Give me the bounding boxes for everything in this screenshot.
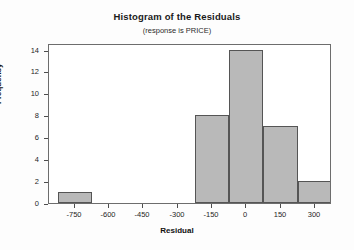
x-axis-tick-label: 0: [228, 210, 262, 219]
y-axis-label: Frequency: [0, 64, 3, 104]
y-axis-tick-label: 0: [17, 199, 39, 208]
chart-subtitle: (response is PRICE): [0, 26, 354, 35]
x-axis-tick: [74, 204, 75, 208]
y-axis-tick-label: 6: [17, 133, 39, 142]
x-axis-tick: [245, 204, 246, 208]
histogram-bar: [298, 181, 330, 203]
x-axis-tick-label: -750: [57, 210, 91, 219]
x-axis-tick-label: -300: [160, 210, 194, 219]
histogram-bar: [58, 192, 92, 203]
y-axis-tick: [44, 204, 48, 205]
histogram-chart: Histogram of the Residuals (response is …: [0, 0, 354, 250]
y-axis-tick-label: 8: [17, 111, 39, 120]
x-axis-label: Residual: [0, 226, 354, 235]
x-axis-tick: [177, 204, 178, 208]
x-axis-tick-label: 300: [297, 210, 331, 219]
y-axis-tick-label: 2: [17, 177, 39, 186]
y-axis-tick-label: 10: [17, 89, 39, 98]
plot-frame: [48, 44, 331, 204]
y-axis-tick-label: 4: [17, 155, 39, 164]
x-axis-tick: [314, 204, 315, 208]
x-axis-tick-label: 150: [263, 210, 297, 219]
x-axis-tick: [280, 204, 281, 208]
x-axis-tick-label: -600: [91, 210, 125, 219]
x-axis-tick: [211, 204, 212, 208]
x-axis-tick-label: -150: [194, 210, 228, 219]
histogram-bar: [263, 126, 297, 203]
y-axis-tick-label: 14: [17, 46, 39, 55]
x-axis-tick: [142, 204, 143, 208]
histogram-bar: [195, 115, 229, 203]
x-axis-tick-label: -450: [125, 210, 159, 219]
histogram-bar: [229, 50, 263, 203]
y-axis-tick-label: 12: [17, 67, 39, 76]
x-axis-tick: [108, 204, 109, 208]
chart-title: Histogram of the Residuals: [0, 11, 354, 22]
plot-area: [49, 45, 330, 203]
